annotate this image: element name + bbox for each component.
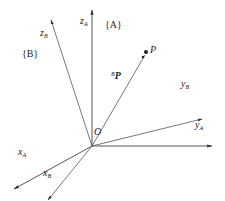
label-frame-B: {B}	[22, 49, 38, 59]
axis-yB	[92, 119, 202, 146]
label-vector-BP: BP	[111, 71, 121, 81]
coordinate-frames-diagram	[0, 0, 225, 201]
axis-zB	[51, 20, 92, 146]
label-point-P: P	[150, 45, 156, 55]
point-P-dot	[144, 50, 148, 54]
label-yA: yA	[195, 120, 203, 131]
label-zB: zB	[40, 28, 48, 39]
label-frame-A: {A}	[105, 20, 122, 30]
axis-xB	[48, 146, 92, 200]
vector-head-dot	[142, 56, 145, 59]
label-zA: zA	[80, 16, 88, 27]
label-xA: xA	[18, 147, 26, 158]
label-origin-O: O	[94, 127, 101, 137]
label-xB: xB	[43, 168, 51, 179]
label-yB: yB	[181, 79, 189, 90]
